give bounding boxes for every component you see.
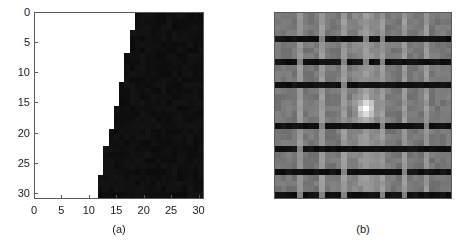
panel-a-x-tick-mark [116,195,117,199]
panel-a-y-tick-mark [34,72,38,73]
panel-a-x-tick-mark [89,195,90,199]
panel-a-x-tick-mark [61,195,62,199]
panel-a-x-tick-label: 10 [83,205,95,216]
panel-a-x-tick-label: 25 [165,205,177,216]
panel-a-caption: (a) [112,223,125,235]
panel-a-x-tick-mark [171,195,172,199]
panel-a-y-tick-mark [34,133,38,134]
panel-a: 051015202530 051015202530 (a) [0,0,234,245]
panel-a-y-tick-label: 20 [4,127,30,138]
panel-a-x-tick-label: 5 [58,205,64,216]
panel-a-x-tick-label: 20 [138,205,150,216]
panel-a-axes [34,12,204,199]
panel-a-y-tick-label: 15 [4,97,30,108]
panel-a-image [35,13,203,198]
panel-a-y-tick-label: 10 [4,67,30,78]
panel-b-axes [274,12,452,199]
panel-a-y-tick-label: 25 [4,157,30,168]
panel-b-heatmap [275,13,451,198]
panel-a-y-tick-label: 30 [4,187,30,198]
panel-a-x-tick-label: 15 [110,205,122,216]
panel-a-x-tick-mark [199,195,200,199]
panel-a-y-tick-mark [34,42,38,43]
panel-a-y-tick-mark [34,12,38,13]
panel-a-x-tick-mark [144,195,145,199]
panel-b-caption: (b) [356,223,369,235]
panel-a-y-tick-mark [34,102,38,103]
panel-a-x-tick-label: 0 [31,205,37,216]
panel-a-x-tick-label: 30 [192,205,204,216]
panel-a-x-tick-mark [34,195,35,199]
figure-root: 051015202530 051015202530 (a) 00.10.20.3… [0,0,468,245]
panel-a-y-tick-label: 5 [4,37,30,48]
panel-a-y-tick-mark [34,193,38,194]
panel-a-y-tick-label: 0 [4,7,30,18]
panel-a-y-tick-mark [34,163,38,164]
panel-b: 00.10.20.30.40.50.60.70.80.9 00.20.40.60… [234,0,468,245]
